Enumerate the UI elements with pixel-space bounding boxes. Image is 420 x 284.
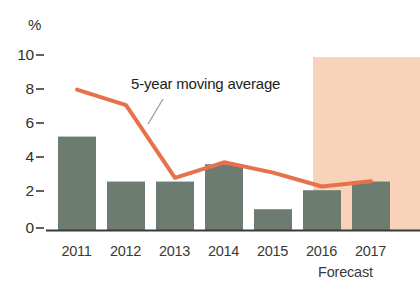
x-tick-label-2017: 2017 — [346, 243, 395, 259]
chart-container: % 10 8 6 4 2 0 5-year moving average 201… — [0, 0, 420, 284]
forecast-caption: Forecast — [318, 264, 373, 280]
y-axis-tick-marks — [36, 55, 44, 228]
bar-2017 — [352, 182, 390, 230]
bar-2014 — [205, 164, 243, 230]
x-tick-label-2013: 2013 — [150, 243, 199, 259]
x-tick-label-2011: 2011 — [52, 243, 101, 259]
bar-2012 — [107, 182, 145, 230]
bar-2015 — [254, 209, 292, 230]
bar-2013 — [156, 182, 194, 230]
bar-2016 — [303, 190, 341, 230]
moving-average-annotation: 5-year moving average — [131, 75, 280, 92]
x-tick-label-2014: 2014 — [199, 243, 248, 259]
bar-2011 — [58, 137, 96, 230]
x-tick-label-2012: 2012 — [101, 243, 150, 259]
x-tick-label-2016: 2016 — [297, 243, 346, 259]
chart-plot-area — [0, 0, 420, 284]
x-tick-label-2015: 2015 — [248, 243, 297, 259]
annotation-leader-line — [148, 99, 163, 124]
